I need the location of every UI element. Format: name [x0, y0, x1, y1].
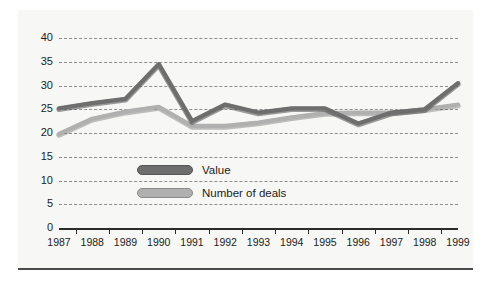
x-axis-line — [59, 228, 458, 230]
legend-label: Value — [202, 164, 231, 176]
legend-label: Number of deals — [202, 187, 286, 199]
y-axis-tick-label: 20 — [19, 127, 53, 138]
x-axis-tick — [109, 228, 110, 234]
y-axis-tick-label: 15 — [19, 151, 53, 162]
y-axis-tick-label: 25 — [19, 103, 53, 114]
legend-swatch — [137, 188, 193, 198]
y-axis-labels: 4035302520151050 — [19, 38, 53, 228]
y-axis-tick-label: 10 — [19, 175, 53, 186]
x-axis-tick — [441, 228, 442, 234]
legend-swatch — [137, 165, 193, 175]
legend-item[interactable]: Value — [137, 160, 317, 180]
x-axis-tick — [142, 228, 143, 234]
x-axis-tick — [408, 228, 409, 234]
y-axis-tick-label: 30 — [19, 80, 53, 91]
y-axis-tick-label: 40 — [19, 32, 53, 43]
chart-figure: 4035302520151050 19871988198919901991199… — [0, 0, 491, 282]
x-axis-tick — [175, 228, 176, 234]
bottom-divider-rule — [18, 268, 473, 270]
x-axis-tick — [275, 228, 276, 234]
y-axis-tick-label: 0 — [19, 222, 53, 233]
y-axis-tick-label: 5 — [19, 198, 53, 209]
x-axis-tick-label: 1999 — [436, 237, 480, 248]
chart-legend: ValueNumber of deals — [137, 160, 317, 206]
x-axis-tick — [242, 228, 243, 234]
y-axis-tick-label: 35 — [19, 56, 53, 67]
series-line — [59, 105, 458, 134]
x-axis-tick — [209, 228, 210, 234]
x-axis-tick — [375, 228, 376, 234]
legend-item[interactable]: Number of deals — [137, 183, 317, 203]
x-axis-tick — [76, 228, 77, 234]
x-axis-tick — [342, 228, 343, 234]
x-axis-tick — [308, 228, 309, 234]
